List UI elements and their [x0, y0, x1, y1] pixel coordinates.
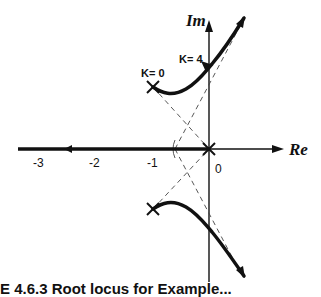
- imag-axis-label: Im: [186, 12, 206, 29]
- lower-branch: [153, 203, 244, 276]
- real-axis-label: Re: [289, 141, 308, 158]
- figure-caption: E 4.6.3 Root locus for Example...: [0, 280, 232, 297]
- pole-upper-cross-icon: [147, 81, 159, 93]
- tick-label-neg3: -3: [33, 157, 44, 169]
- real-axis-arrow-icon: [272, 145, 284, 153]
- locus-direction-arrow-icon: [64, 145, 72, 153]
- imag-axis-arrow-icon: [205, 20, 213, 32]
- tick-label-neg2: -2: [89, 157, 100, 169]
- k-cross-label: K= 4: [179, 54, 203, 65]
- tick-label-neg1: -1: [147, 157, 158, 169]
- tick-label-0: 0: [215, 163, 222, 175]
- pole-lower-cross-icon: [147, 203, 159, 215]
- k-start-label: K= 0: [141, 68, 165, 79]
